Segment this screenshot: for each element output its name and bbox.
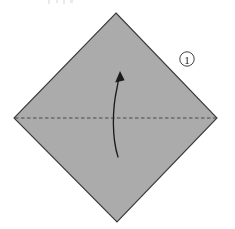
artifact-mark	[48, 0, 50, 4]
artifact-mark	[56, 0, 58, 3]
origami-diagram-canvas: 1	[0, 0, 235, 229]
origami-diagram-figure: 1	[0, 0, 235, 229]
artifact-mark	[63, 0, 65, 4]
step-number-label: 1	[184, 54, 190, 66]
artifact-mark	[70, 0, 73, 3]
